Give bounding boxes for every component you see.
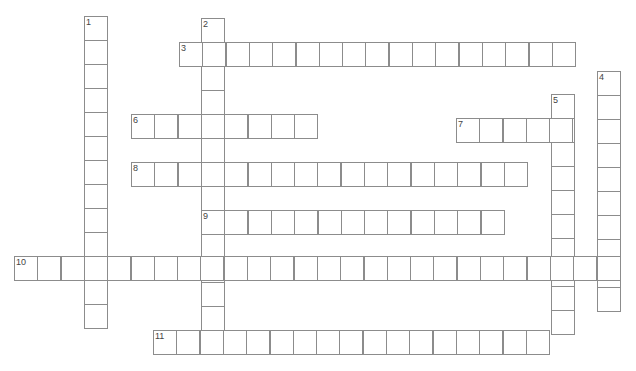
crossword-cell-10-across-19[interactable]	[433, 256, 457, 281]
crossword-cell-4-down-4[interactable]	[597, 143, 621, 168]
crossword-cell-1-down-1[interactable]: 1	[84, 16, 108, 41]
crossword-cell-8-across-8[interactable]	[294, 162, 318, 187]
crossword-cell-7-across-3[interactable]	[503, 118, 527, 143]
crossword-cell-7-across-2[interactable]	[479, 118, 503, 143]
crossword-cell-10-across-21[interactable]	[480, 256, 504, 281]
crossword-cell-10-across-24[interactable]	[550, 256, 574, 281]
crossword-cell-8-across-14[interactable]	[434, 162, 458, 187]
crossword-cell-6-across-6[interactable]	[248, 114, 272, 139]
crossword-cell-3-across-17[interactable]	[552, 42, 576, 67]
crossword-cell-3-across-14[interactable]	[482, 42, 506, 67]
crossword-cell-9-across-4[interactable]	[271, 210, 295, 235]
crossword-cell-5-down-9[interactable]	[551, 286, 575, 311]
crossword-cell-9-across-12[interactable]	[457, 210, 481, 235]
crossword-cell-10-across-26[interactable]	[597, 256, 621, 281]
crossword-cell-11-across-15[interactable]	[479, 330, 503, 355]
crossword-cell-11-across-14[interactable]	[456, 330, 480, 355]
crossword-cell-2-down-13[interactable]	[201, 306, 225, 331]
crossword-cell-1-down-5[interactable]	[84, 112, 108, 137]
crossword-cell-7-across-1[interactable]: 7	[456, 118, 480, 143]
crossword-cell-3-across-6[interactable]	[296, 42, 320, 67]
crossword-cell-6-across-8[interactable]	[294, 114, 318, 139]
crossword-cell-3-across-11[interactable]	[412, 42, 436, 67]
crossword-cell-3-across-16[interactable]	[529, 42, 553, 67]
crossword-cell-11-across-16[interactable]	[503, 330, 527, 355]
crossword-cell-11-across-13[interactable]	[433, 330, 457, 355]
crossword-cell-8-across-3[interactable]	[178, 162, 202, 187]
crossword-cell-9-across-8[interactable]	[364, 210, 388, 235]
crossword-cell-6-across-5[interactable]	[224, 114, 248, 139]
crossword-cell-2-down-1[interactable]: 2	[201, 18, 225, 43]
crossword-cell-8-across-17[interactable]	[504, 162, 528, 187]
crossword-cell-8-across-1[interactable]: 8	[131, 162, 155, 187]
crossword-cell-10-across-14[interactable]	[317, 256, 341, 281]
crossword-cell-2-down-12[interactable]	[201, 282, 225, 307]
crossword-cell-1-down-8[interactable]	[84, 184, 108, 209]
crossword-cell-7-across-5[interactable]	[549, 118, 573, 143]
crossword-cell-10-across-5[interactable]	[107, 256, 131, 281]
crossword-cell-10-across-20[interactable]	[457, 256, 481, 281]
crossword-cell-11-across-3[interactable]	[200, 330, 224, 355]
crossword-cell-5-down-10[interactable]	[551, 310, 575, 335]
crossword-cell-8-across-16[interactable]	[481, 162, 505, 187]
crossword-cell-9-across-9[interactable]	[387, 210, 411, 235]
crossword-cell-6-across-2[interactable]	[154, 114, 178, 139]
crossword-cell-1-down-2[interactable]	[84, 40, 108, 65]
crossword-cell-3-across-5[interactable]	[272, 42, 296, 67]
crossword-cell-9-across-10[interactable]	[411, 210, 435, 235]
crossword-cell-10-across-11[interactable]	[247, 256, 271, 281]
crossword-cell-4-down-1[interactable]: 4	[597, 71, 621, 96]
crossword-cell-1-down-7[interactable]	[84, 160, 108, 185]
crossword-cell-8-across-7[interactable]	[271, 162, 295, 187]
crossword-cell-10-across-18[interactable]	[410, 256, 434, 281]
crossword-cell-2-down-8[interactable]	[201, 186, 225, 211]
crossword-cell-1-down-3[interactable]	[84, 64, 108, 89]
crossword-cell-3-across-1[interactable]: 3	[179, 42, 203, 67]
crossword-cell-3-across-15[interactable]	[505, 42, 529, 67]
crossword-cell-10-across-9[interactable]	[200, 256, 224, 281]
crossword-cell-8-across-4[interactable]	[201, 162, 225, 187]
crossword-cell-4-down-10[interactable]	[597, 287, 621, 312]
crossword-cell-11-across-6[interactable]	[270, 330, 294, 355]
crossword-cell-11-across-10[interactable]	[363, 330, 387, 355]
crossword-cell-3-across-13[interactable]	[459, 42, 483, 67]
crossword-cell-1-down-6[interactable]	[84, 136, 108, 161]
crossword-cell-9-across-7[interactable]	[341, 210, 365, 235]
crossword-cell-8-across-10[interactable]	[341, 162, 365, 187]
crossword-cell-8-across-15[interactable]	[457, 162, 481, 187]
crossword-cell-4-down-6[interactable]	[597, 191, 621, 216]
crossword-cell-4-down-3[interactable]	[597, 119, 621, 144]
crossword-cell-3-across-10[interactable]	[389, 42, 413, 67]
crossword-cell-11-across-12[interactable]	[409, 330, 433, 355]
crossword-cell-4-down-2[interactable]	[597, 95, 621, 120]
crossword-cell-10-across-8[interactable]	[177, 256, 201, 281]
crossword-cell-10-across-3[interactable]	[61, 256, 85, 281]
crossword-cell-1-down-9[interactable]	[84, 208, 108, 233]
crossword-cell-11-across-7[interactable]	[293, 330, 317, 355]
crossword-cell-3-across-9[interactable]	[365, 42, 389, 67]
crossword-cell-9-across-3[interactable]	[248, 210, 272, 235]
crossword-cell-8-across-12[interactable]	[387, 162, 411, 187]
crossword-cell-10-across-4[interactable]	[84, 256, 108, 281]
crossword-cell-4-down-7[interactable]	[597, 215, 621, 240]
crossword-cell-10-across-25[interactable]	[573, 256, 597, 281]
crossword-cell-6-across-3[interactable]	[178, 114, 202, 139]
crossword-cell-11-across-9[interactable]	[339, 330, 363, 355]
crossword-cell-10-across-22[interactable]	[503, 256, 527, 281]
crossword-cell-9-across-1[interactable]: 9	[201, 210, 225, 235]
crossword-cell-5-down-3[interactable]	[551, 142, 575, 167]
crossword-cell-10-across-17[interactable]	[387, 256, 411, 281]
crossword-cell-2-down-6[interactable]	[201, 138, 225, 163]
crossword-cell-10-across-15[interactable]	[340, 256, 364, 281]
crossword-cell-5-down-4[interactable]	[551, 166, 575, 191]
crossword-cell-3-across-7[interactable]	[319, 42, 343, 67]
crossword-cell-9-across-6[interactable]	[318, 210, 342, 235]
crossword-cell-8-across-11[interactable]	[364, 162, 388, 187]
crossword-cell-1-down-12[interactable]	[84, 280, 108, 305]
crossword-cell-5-down-6[interactable]	[551, 214, 575, 239]
crossword-cell-1-down-10[interactable]	[84, 232, 108, 257]
crossword-cell-11-across-1[interactable]: 11	[153, 330, 177, 355]
crossword-cell-6-across-7[interactable]	[271, 114, 295, 139]
crossword-cell-8-across-9[interactable]	[317, 162, 341, 187]
crossword-cell-10-across-2[interactable]	[37, 256, 61, 281]
